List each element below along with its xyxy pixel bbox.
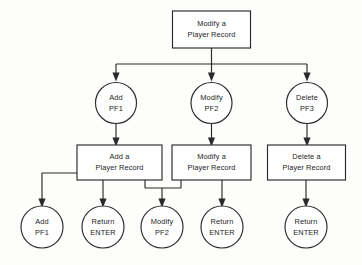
- node-label-line2: Player Record: [187, 163, 235, 172]
- node-label-line1: Return: [295, 217, 318, 226]
- node-root-modify-player-record[interactable]: Modify a Player Record: [173, 11, 251, 48]
- node-label-line1: Modify: [151, 217, 174, 226]
- node-label-line2: PF1: [35, 228, 49, 237]
- node-label-line2: Player Record: [95, 163, 143, 172]
- flowchart-diagram: Modify a Player Record Add PF1 Modify PF…: [0, 0, 362, 265]
- arrowhead-bus-to-delete-pf3: [303, 73, 310, 82]
- node-label-line2: PF2: [155, 228, 169, 237]
- node-label-line1: Delete a: [292, 152, 321, 161]
- node-leaf-return-enter-2[interactable]: Return ENTER: [201, 206, 243, 248]
- node-menu-add-pf1[interactable]: Add PF1: [96, 83, 137, 124]
- node-label-line2: ENTER: [90, 228, 116, 237]
- node-label-line2: ENTER: [293, 228, 319, 237]
- flowchart-canvas: Modify a Player Record Add PF1 Modify PF…: [0, 0, 362, 265]
- node-menu-delete-pf3[interactable]: Delete PF3: [287, 83, 328, 124]
- node-label-line1: Modify a: [197, 152, 227, 161]
- node-leaf-add-pf1[interactable]: Add PF1: [21, 206, 63, 248]
- node-label-line1: Delete: [296, 93, 318, 102]
- node-label-line2: PF3: [300, 104, 314, 113]
- node-process-delete-player-record[interactable]: Delete a Player Record: [268, 145, 346, 180]
- node-label-line1: Modify: [200, 93, 223, 102]
- node-label-line1: Add: [109, 93, 122, 102]
- node-label-line2: Player Record: [187, 30, 235, 39]
- node-process-modify-player-record[interactable]: Modify a Player Record: [172, 145, 251, 180]
- node-label-line2: ENTER: [209, 228, 235, 237]
- arrowhead-bus-to-add-pf1: [112, 73, 119, 82]
- node-leaf-return-enter-1[interactable]: Return ENTER: [82, 206, 124, 248]
- node-label-line2: PF2: [205, 104, 219, 113]
- node-label-line2: PF1: [109, 104, 123, 113]
- node-label-line2: Player Record: [282, 163, 330, 172]
- connector-add-box-to-add-pf1-leaf: [42, 173, 77, 203]
- node-process-add-player-record[interactable]: Add a Player Record: [77, 145, 162, 180]
- node-leaf-modify-pf2[interactable]: Modify PF2: [141, 206, 183, 248]
- node-label-line1: Return: [92, 217, 115, 226]
- node-label-line1: Modify a: [197, 19, 227, 28]
- arrowhead-bus-to-modify-pf2: [208, 73, 215, 82]
- node-label-line1: Add a: [110, 152, 131, 161]
- node-leaf-return-enter-3[interactable]: Return ENTER: [285, 206, 327, 248]
- connector-layer: [38, 48, 310, 208]
- node-label-line1: Return: [211, 217, 234, 226]
- node-label-line1: Add: [35, 217, 48, 226]
- node-menu-modify-pf2[interactable]: Modify PF2: [191, 83, 232, 124]
